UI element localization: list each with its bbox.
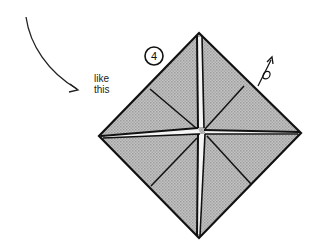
step-number: 4 [151, 50, 157, 62]
annotation-line-2: this [94, 84, 110, 95]
folded-model [99, 33, 301, 238]
crease-line [197, 36, 198, 128]
step-number-badge: 4 [145, 47, 163, 65]
curved-arrow-icon [26, 17, 78, 92]
like-this-annotation: like this [94, 73, 110, 95]
crease-line [197, 134, 198, 236]
annotation-line-1: like [94, 73, 110, 84]
fold-arrow-icon [258, 57, 273, 86]
origami-step-diagram: 4 [0, 0, 321, 250]
